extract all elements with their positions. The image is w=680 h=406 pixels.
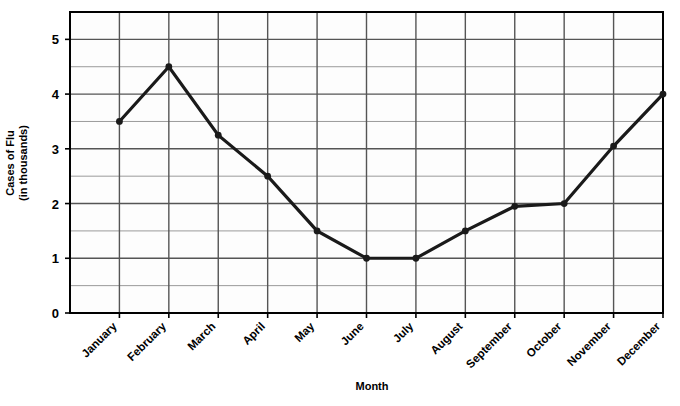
data-point-marker (116, 118, 123, 125)
y-axis-title-line-1: Cases of Flu (4, 130, 16, 195)
data-point-marker (462, 228, 469, 235)
y-axis-tick-label: 3 (52, 142, 59, 157)
data-point-marker (264, 173, 271, 180)
data-point-marker (314, 228, 321, 235)
chart-canvas: 012345 JanuaryFebruaryMarchAprilMayJuneJ… (0, 0, 680, 406)
data-point-marker (660, 91, 667, 98)
y-axis-tick-label: 4 (52, 87, 60, 102)
data-point-marker (215, 132, 222, 139)
y-axis-tick-label: 0 (52, 306, 59, 321)
y-axis-tick-label: 1 (52, 251, 59, 266)
y-axis-tick-label: 2 (52, 197, 59, 212)
data-point-marker (363, 255, 370, 262)
data-point-marker (413, 255, 420, 262)
data-point-marker (165, 63, 172, 70)
y-axis-tick-label: 5 (52, 32, 59, 47)
data-point-marker (511, 203, 518, 210)
flu-cases-line-chart: 012345 JanuaryFebruaryMarchAprilMayJuneJ… (0, 0, 680, 406)
y-axis-title: Cases of Flu (in thousands) (4, 125, 29, 201)
data-point-marker (561, 200, 568, 207)
y-axis-title-line-2: (in thousands) (17, 125, 29, 201)
data-point-marker (610, 143, 617, 150)
x-axis-title: Month (356, 380, 389, 392)
